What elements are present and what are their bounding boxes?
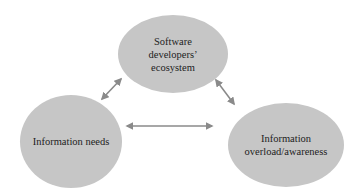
node-label: Information needs bbox=[33, 135, 110, 148]
node-software-developers-ecosystem: Software developers’ ecosystem bbox=[118, 15, 228, 93]
arrow-ecosystem-overload bbox=[216, 80, 234, 104]
node-label: Information overload/awareness bbox=[245, 132, 328, 158]
node-label: Software developers’ ecosystem bbox=[149, 35, 198, 74]
node-information-needs: Information needs bbox=[20, 95, 122, 188]
arrow-ecosystem-needs bbox=[102, 79, 121, 99]
node-information-overload-awareness: Information overload/awareness bbox=[228, 103, 344, 187]
diagram-canvas: Software developers’ ecosystem Informati… bbox=[0, 0, 345, 195]
